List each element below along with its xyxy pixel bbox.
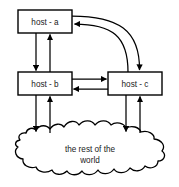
node-host-a: host - a <box>18 10 72 33</box>
network-topology-diagram: the rest of the world host - a host - b <box>0 0 179 187</box>
node-host-a-label: host - a <box>31 18 59 27</box>
node-host-c-label: host - c <box>122 80 149 89</box>
cloud-label-line-2: world <box>79 156 100 165</box>
node-host-b: host - b <box>18 72 72 95</box>
edge-host-c-to-host-a <box>75 24 129 72</box>
diagram-canvas: the rest of the world host - a host - b <box>0 0 179 187</box>
cloud-label-line-1: the rest of the <box>65 145 116 154</box>
cloud-rest-of-the-world: the rest of the world <box>16 121 165 175</box>
node-host-c: host - c <box>108 72 162 95</box>
node-host-b-label: host - b <box>31 80 59 89</box>
